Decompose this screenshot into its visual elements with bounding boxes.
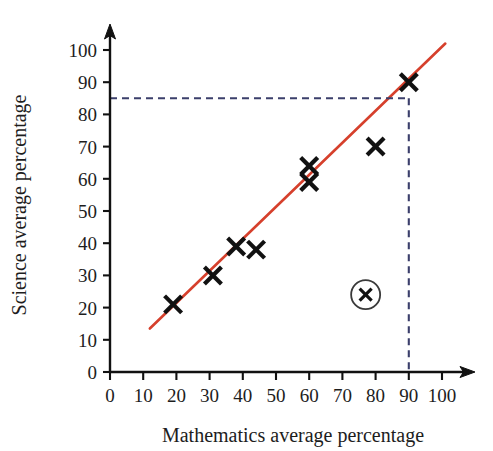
y-tick-label: 80	[78, 104, 97, 125]
scatter-chart: 0102030405060708090100 01020304050607080…	[0, 0, 493, 451]
y-tick-label: 0	[88, 362, 98, 383]
y-tick-label: 70	[78, 137, 97, 158]
y-tick-label: 40	[78, 233, 97, 254]
x-tick-label: 60	[300, 385, 319, 406]
x-tick-label: 90	[399, 385, 418, 406]
x-tick-label: 80	[366, 385, 385, 406]
x-tick-label: 0	[105, 385, 115, 406]
y-tick-label: 20	[78, 298, 97, 319]
x-tick-label: 10	[134, 385, 153, 406]
x-axis-title: Mathematics average percentage	[162, 424, 424, 447]
y-axis-title: Science average percentage	[8, 94, 31, 315]
x-tick-label: 40	[233, 385, 252, 406]
chart-canvas: 0102030405060708090100 01020304050607080…	[0, 0, 493, 451]
x-tick-label: 30	[200, 385, 219, 406]
x-tick-label: 100	[428, 385, 457, 406]
x-tick-label: 20	[167, 385, 186, 406]
x-tick-label: 70	[333, 385, 352, 406]
y-tick-label: 50	[78, 201, 97, 222]
y-tick-label: 100	[69, 40, 98, 61]
y-tick-label: 30	[78, 265, 97, 286]
y-tick-label: 10	[78, 330, 97, 351]
y-tick-label: 90	[78, 72, 97, 93]
y-tick-label: 60	[78, 169, 97, 190]
x-tick-label: 50	[267, 385, 286, 406]
